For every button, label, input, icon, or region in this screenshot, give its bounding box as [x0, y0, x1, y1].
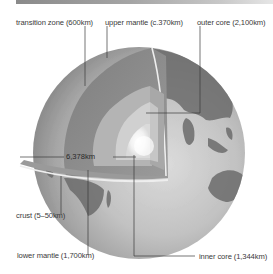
label-transition-zone: transition zone (600km) — [16, 18, 93, 27]
earth-diagram — [0, 0, 273, 274]
label-lower-mantle: lower mantle (1,700km) — [17, 251, 94, 260]
globe — [20, 47, 245, 259]
label-crust: crust (5–50km) — [16, 211, 65, 220]
label-inner-core: inner core (1,344km) — [199, 252, 267, 261]
label-radius: 6,378km — [66, 152, 95, 161]
label-upper-mantle: upper mantle (c.370km) — [105, 18, 183, 27]
label-outer-core: outer core (2,100km) — [197, 18, 265, 27]
